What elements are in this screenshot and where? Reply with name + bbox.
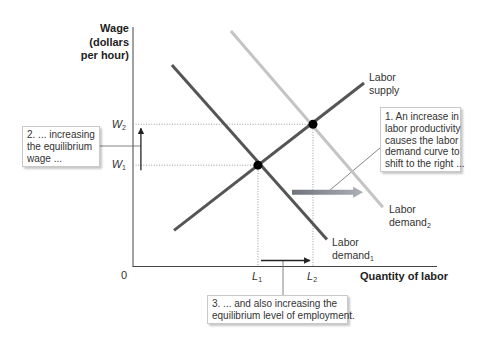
callout-productivity-shift: 1. An increase in labor productivity cau…: [380, 107, 461, 172]
labor-demand-2-label: Labor demand2: [389, 203, 431, 232]
callout-line: 2. ... increasing: [27, 129, 96, 141]
labor-demand2-curve: [231, 31, 383, 207]
y-tick-w1: W1: [112, 158, 126, 171]
curve-label-text: demand: [389, 216, 427, 228]
curve-label-line: demand1: [332, 249, 374, 265]
equilibrium-point: [308, 120, 317, 129]
y-axis-label-line: per hour): [81, 49, 129, 63]
labor-market-chart: Wage (dollars per hour) 0 Quantity of la…: [0, 0, 480, 339]
curve-label-line: Labor: [369, 71, 399, 84]
callout-line: 3. ... and also increasing the: [212, 298, 344, 310]
callout-line: shift to the right ...: [385, 158, 457, 170]
curve-label-line: Labor: [389, 203, 431, 216]
tick-sub: 1: [258, 276, 262, 283]
callout-line: causes the labor: [385, 135, 457, 147]
labor-supply-label: Labor supply: [369, 71, 399, 97]
demand-shift-arrow-icon: [292, 187, 363, 198]
callout-employment-increase: 3. ... and also increasing the equilibri…: [207, 295, 348, 324]
y-axis-label: Wage (dollars per hour): [81, 22, 129, 63]
curve-label-sub: 2: [427, 222, 431, 229]
equilibrium-point: [253, 161, 262, 170]
labor-demand-1-label: Labor demand1: [332, 236, 374, 265]
tick-sub: 2: [313, 276, 317, 283]
y-tick-w2: W2: [112, 118, 126, 131]
y-axis-label-line: (dollars: [81, 36, 129, 50]
callout-line: labor productivity: [385, 123, 457, 135]
labor-supply-curve: [174, 83, 364, 230]
callout-wage-increase: 2. ... increasing the equilibrium wage .…: [22, 126, 100, 167]
callout-line: the equilibrium: [27, 141, 96, 153]
curve-label-line: Labor: [332, 236, 374, 249]
x-tick-l2: L2: [307, 270, 317, 283]
tick-main: W: [112, 158, 122, 170]
tick-sub: 2: [122, 124, 126, 131]
curve-label-line: demand2: [389, 216, 431, 232]
curve-label-line: supply: [369, 84, 399, 97]
x-tick-l1: L1: [252, 270, 262, 283]
y-axis-label-line: Wage: [81, 22, 129, 36]
origin-label: 0: [121, 269, 127, 281]
chart-series-layer: [133, 31, 383, 266]
callout-line: wage ...: [27, 153, 96, 165]
curve-label-text: demand: [332, 249, 370, 261]
tick-main: W: [112, 118, 122, 130]
callout-line: 1. An increase in: [385, 111, 457, 123]
callout-line: demand curve to: [385, 146, 457, 158]
curve-label-sub: 1: [370, 255, 374, 262]
tick-sub: 1: [122, 164, 126, 171]
callout-line: equilibrium level of employment.: [212, 310, 344, 322]
x-axis-label: Quantity of labor: [360, 270, 448, 282]
